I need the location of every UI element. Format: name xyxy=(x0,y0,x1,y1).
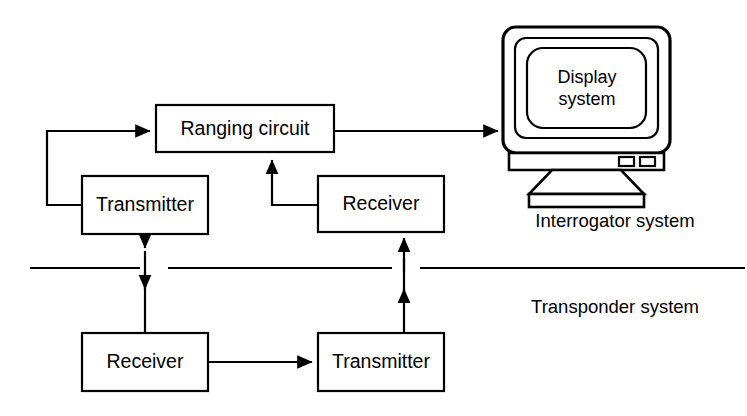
crt-monitor-icon[interactable]: Display system xyxy=(503,27,670,207)
block-diagram: Ranging circuit Transmitter Receiver Rec… xyxy=(0,0,747,416)
block-label-transponder-transmitter: Transmitter xyxy=(332,350,430,372)
block-transponder-transmitter[interactable]: Transmitter xyxy=(318,333,444,391)
block-interrogator-transmitter[interactable]: Transmitter xyxy=(82,176,208,234)
display-screen-line-2: system xyxy=(558,89,615,109)
block-label-transponder-receiver: Receiver xyxy=(107,350,184,372)
block-label-interrogator-receiver: Receiver xyxy=(343,192,420,214)
block-label-ranging-circuit: Ranging circuit xyxy=(181,117,311,139)
block-transponder-receiver[interactable]: Receiver xyxy=(82,333,208,391)
block-interrogator-receiver[interactable]: Receiver xyxy=(318,176,444,232)
block-label-interrogator-transmitter: Transmitter xyxy=(96,193,194,215)
block-ranging-circuit[interactable]: Ranging circuit xyxy=(156,105,334,152)
label-transponder-system: Transponder system xyxy=(531,296,699,317)
label-interrogator-system: Interrogator system xyxy=(535,210,694,231)
connection-receiver-to-ranging xyxy=(272,160,318,205)
display-screen-line-1: Display xyxy=(557,67,616,87)
diagram-canvas: Ranging circuit Transmitter Receiver Rec… xyxy=(0,0,747,416)
